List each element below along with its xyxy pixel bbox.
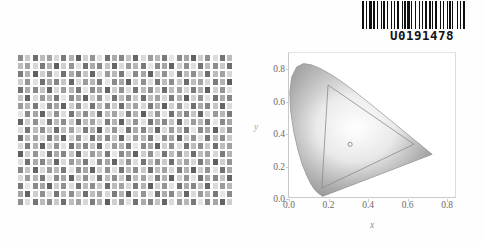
color-swatch	[97, 159, 102, 165]
color-swatch	[198, 191, 203, 197]
color-swatch	[133, 71, 138, 77]
color-swatch	[54, 87, 59, 93]
color-swatch	[213, 111, 218, 117]
color-swatch	[69, 135, 74, 141]
color-swatch	[220, 127, 225, 133]
color-swatch	[177, 199, 182, 205]
color-swatch	[61, 71, 66, 77]
y-tick-mark	[286, 102, 289, 103]
color-swatch	[76, 71, 81, 77]
color-swatch	[47, 95, 52, 101]
color-swatch	[83, 159, 88, 165]
color-swatch	[25, 167, 30, 173]
color-swatch	[25, 135, 30, 141]
color-swatch	[205, 71, 210, 77]
color-swatch	[76, 63, 81, 69]
color-swatch	[133, 119, 138, 125]
color-swatch	[76, 79, 81, 85]
color-swatch	[54, 103, 59, 109]
color-swatch	[191, 55, 196, 61]
color-swatch	[33, 127, 38, 133]
color-swatch	[54, 63, 59, 69]
color-swatch	[126, 175, 131, 181]
swatch-grid	[17, 54, 233, 206]
color-swatch	[205, 63, 210, 69]
color-swatch	[90, 79, 95, 85]
color-swatch	[61, 119, 66, 125]
color-swatch	[177, 103, 182, 109]
color-swatch	[97, 111, 102, 117]
color-swatch	[40, 191, 45, 197]
color-swatch	[169, 55, 174, 61]
color-swatch	[97, 183, 102, 189]
color-swatch	[169, 135, 174, 141]
color-swatch	[205, 135, 210, 141]
color-swatch	[47, 175, 52, 181]
color-swatch	[198, 175, 203, 181]
color-swatch	[205, 191, 210, 197]
color-swatch	[169, 151, 174, 157]
color-swatch	[33, 167, 38, 173]
color-swatch	[18, 151, 23, 157]
color-swatch	[184, 183, 189, 189]
x-axis-label: x	[288, 220, 456, 230]
color-swatch	[69, 151, 74, 157]
color-swatch	[177, 95, 182, 101]
color-swatch	[90, 191, 95, 197]
color-swatch	[54, 159, 59, 165]
color-swatch	[112, 71, 117, 77]
color-swatch	[76, 119, 81, 125]
color-swatch	[40, 95, 45, 101]
color-swatch	[220, 55, 225, 61]
color-swatch	[25, 103, 30, 109]
color-swatch	[148, 167, 153, 173]
color-swatch	[33, 63, 38, 69]
color-swatch	[198, 151, 203, 157]
color-swatch	[119, 135, 124, 141]
color-swatch	[90, 103, 95, 109]
color-swatch	[191, 71, 196, 77]
color-swatch	[105, 151, 110, 157]
color-swatch	[76, 127, 81, 133]
color-swatch	[69, 167, 74, 173]
color-swatch	[47, 167, 52, 173]
color-swatch	[162, 103, 167, 109]
color-swatch	[83, 55, 88, 61]
color-swatch	[33, 111, 38, 117]
color-swatch	[133, 55, 138, 61]
color-swatch	[97, 167, 102, 173]
color-swatch	[18, 63, 23, 69]
x-tick-mark	[368, 199, 369, 202]
color-swatch	[61, 167, 66, 173]
color-swatch	[148, 143, 153, 149]
x-tick-mark	[289, 199, 290, 202]
color-swatch	[177, 167, 182, 173]
color-swatch	[90, 63, 95, 69]
chromaticity-plot-svg	[289, 53, 455, 197]
color-swatch	[126, 71, 131, 77]
color-swatch	[25, 151, 30, 157]
color-swatch	[105, 103, 110, 109]
color-swatch	[76, 159, 81, 165]
color-swatch	[18, 71, 23, 77]
color-swatch	[220, 159, 225, 165]
color-swatch	[169, 95, 174, 101]
color-swatch	[54, 191, 59, 197]
color-swatch	[162, 199, 167, 205]
color-swatch	[97, 191, 102, 197]
barcode-bar	[435, 1, 437, 29]
color-swatch	[97, 175, 102, 181]
color-swatch	[148, 119, 153, 125]
color-swatch	[162, 151, 167, 157]
color-swatch	[47, 119, 52, 125]
color-swatch	[54, 95, 59, 101]
barcode-number: U0191478	[362, 28, 482, 44]
color-swatch	[90, 135, 95, 141]
color-swatch	[141, 79, 146, 85]
color-swatch	[198, 63, 203, 69]
barcode-bar	[429, 1, 431, 29]
color-swatch	[126, 199, 131, 205]
color-swatch	[61, 135, 66, 141]
color-swatch	[205, 127, 210, 133]
color-swatch	[155, 135, 160, 141]
